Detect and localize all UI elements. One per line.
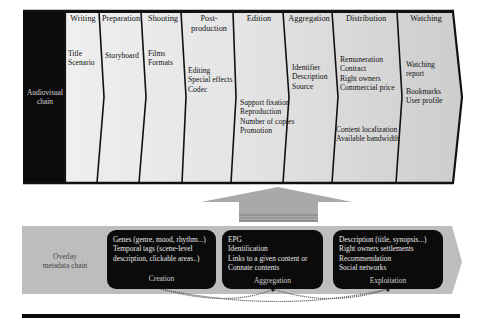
up-arrow-icon (201, 187, 352, 222)
stage-items-writing: Title Scenario (68, 49, 95, 68)
bottom-rule (22, 314, 460, 318)
stage-title-edition: Edition (236, 14, 282, 24)
stage-title-aggregation: Aggregation (285, 14, 333, 24)
stage-items-shooting: Films Formats (148, 49, 173, 68)
audiovisual-chain: Audiovisual chain Writing Title Scenario… (0, 0, 480, 190)
stage-items-post-production: Editing Special effects Codec (188, 66, 232, 94)
metadata-box-caption: Aggregation (222, 276, 323, 285)
metadata-box-aggregation: EPG Identification Links to a given cont… (222, 230, 323, 289)
stage-title-shooting: Shooting (143, 14, 183, 24)
stage-title-post-production: Post- production (184, 14, 234, 34)
metadata-box-exploitation: Description (title, synopsis...) Right o… (333, 230, 443, 289)
stage-items-distribution-top: Remuneration Contract Right owners Comme… (340, 55, 395, 92)
stage-items-edition: Support fixation Reproduction Number of … (240, 98, 294, 135)
stage-items-watching-bottom: Bookmarks User profile (406, 87, 442, 106)
metadata-box-caption: Creation (107, 274, 216, 283)
stage-title-preparation: Preparation (100, 14, 142, 24)
stage-items-distribution-bottom: Content localization Available bandwidth (336, 125, 399, 144)
flow-connectors (161, 289, 388, 302)
metadata-box-caption: Exploitation (333, 276, 443, 285)
overlay-chain-label: Overlay metadata chain (26, 252, 104, 270)
stage-title-distribution: Distribution (336, 14, 396, 24)
stage-items-preparation: Storyboard (105, 51, 139, 60)
stage-title-watching: Watching (400, 14, 452, 24)
audiovisual-chain-label: Audiovisual chain (23, 88, 67, 106)
stage-items-watching-top: Watching report (406, 60, 435, 79)
stage-title-writing: Writing (66, 14, 100, 24)
stage-items-aggregation: Identifier Description Source (292, 63, 327, 91)
metadata-box-creation: Genes (genre, mood, rhythm...) Temporal … (107, 230, 216, 289)
